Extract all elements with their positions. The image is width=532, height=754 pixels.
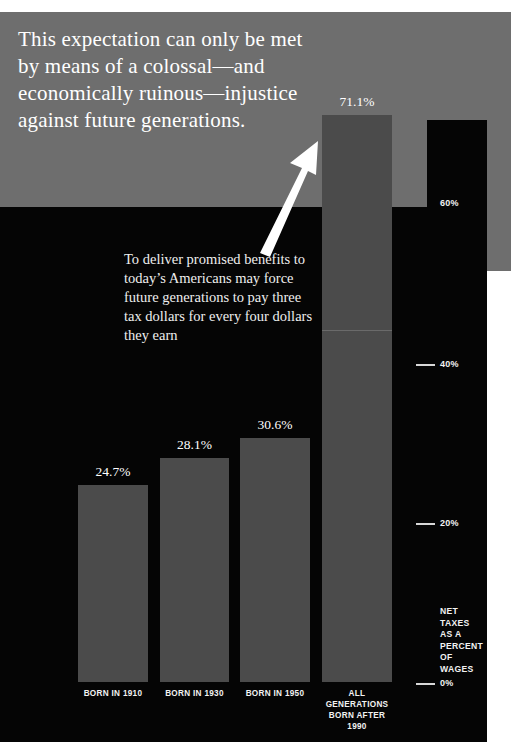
pointer-arrow-icon: [250, 135, 330, 260]
chart-field-notch: [427, 120, 487, 272]
bar-value-label: 30.6%: [240, 417, 310, 433]
y-axis-tick-label: 60%: [440, 198, 459, 208]
caption-text: To deliver promised benefits to today’s …: [124, 250, 314, 345]
y-axis-tick-label: 20%: [440, 518, 459, 528]
bar-category-label: BORN IN 1910: [66, 688, 160, 699]
bar-category-label: BORN IN 1950: [228, 688, 322, 699]
bar-value-label: 71.1%: [322, 94, 392, 110]
bar: [322, 115, 392, 682]
y-axis-tick: [416, 683, 435, 685]
y-axis-tick-label: 40%: [440, 359, 459, 369]
y-axis-tick-label: 0%: [440, 678, 454, 688]
bar-value-label: 28.1%: [160, 437, 229, 453]
y-axis-tick: [416, 523, 435, 525]
headline-text: This expectation can only be met by mean…: [18, 26, 308, 134]
bar: [160, 458, 229, 682]
bar-gridline: [322, 330, 392, 331]
y-axis-tick: [416, 364, 435, 366]
bar: [240, 438, 310, 682]
y-axis-caption: NETTAXESAS APERCENTOFWAGES: [440, 606, 483, 675]
bar: [78, 485, 148, 682]
bar-value-label: 24.7%: [78, 464, 148, 480]
bar-category-label: ALLGENERATIONSBORN AFTER1990: [310, 688, 404, 732]
page-background: This expectation can only be met by mean…: [0, 0, 532, 754]
